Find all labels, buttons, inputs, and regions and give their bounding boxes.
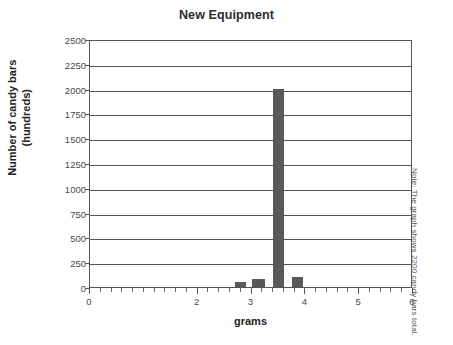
chart-annotation-note: Note: The graph shows 2200 candy bars to… [410,168,419,345]
x-axis-tick-labels: 023456 [89,296,412,310]
x-axis-major-tick [251,288,252,294]
bar [292,277,303,287]
x-axis-minor-tick [100,288,101,292]
x-axis-minor-tick [240,288,241,292]
y-axis-tick-mark [85,288,90,289]
bar [235,282,246,287]
x-axis-tick-label: 5 [356,296,361,307]
x-axis-minor-tick [154,288,155,292]
y-axis-title-line-2: (hundreds) [20,53,34,183]
y-axis-tick-label: 1250 [48,159,86,170]
x-axis-tick-label: 0 [86,296,91,307]
y-axis-tick-mark [85,164,90,165]
x-axis-minor-tick [229,288,230,292]
x-axis-minor-tick [294,288,295,292]
y-axis-tick-label: 1000 [48,183,86,194]
y-axis-tick-mark [85,263,90,264]
bars-layer [90,41,411,287]
bar [273,89,284,287]
x-axis-minor-tick [186,288,187,292]
y-axis-tick-label: 0 [48,283,86,294]
y-axis-tick-mark [85,90,90,91]
x-axis-minor-tick [175,288,176,292]
y-axis-tick-label: 2250 [48,59,86,70]
x-axis-minor-tick [380,288,381,292]
x-axis-tick-label: 2 [194,296,199,307]
y-axis-tick-mark [85,114,90,115]
x-axis-minor-tick [272,288,273,292]
x-axis-minor-tick [347,288,348,292]
y-axis-title: Number of candy bars (hundreds) [6,53,34,183]
y-axis-tick-label: 2500 [48,35,86,46]
x-axis-minor-tick [326,288,327,292]
x-axis-minor-tick [337,288,338,292]
plot-area [89,40,412,288]
x-axis-minor-tick [132,288,133,292]
x-axis-minor-tick [164,288,165,292]
y-axis-tick-label: 750 [48,208,86,219]
y-axis-tick-mark [85,139,90,140]
x-axis-minor-tick [390,288,391,292]
chart-title: New Equipment [0,8,453,22]
y-axis-tick-label: 1500 [48,134,86,145]
x-axis-minor-tick [143,288,144,292]
x-axis-minor-tick [369,288,370,292]
x-axis-minor-tick [111,288,112,292]
y-axis-tick-mark [85,40,90,41]
x-axis-major-tick [197,288,198,294]
x-axis-tick-label: 4 [302,296,307,307]
y-axis-title-line-1: Number of candy bars [6,53,20,183]
x-axis-minor-tick [261,288,262,292]
y-axis-tick-label: 2000 [48,84,86,95]
x-axis-minor-tick [283,288,284,292]
y-axis-tick-label: 1750 [48,109,86,120]
y-axis-tick-label: 250 [48,258,86,269]
y-axis-tick-mark [85,189,90,190]
y-axis-tick-mark [85,214,90,215]
y-axis-tick-label: 500 [48,233,86,244]
x-axis-minor-tick [207,288,208,292]
x-axis-minor-tick [218,288,219,292]
x-axis-major-tick [358,288,359,294]
y-axis-tick-mark [85,238,90,239]
bar [252,279,265,287]
x-axis-major-tick [304,288,305,294]
x-axis-minor-tick [401,288,402,292]
x-axis-title: grams [89,315,412,327]
x-axis-minor-tick [315,288,316,292]
x-axis-tick-label: 3 [248,296,253,307]
chart-container: New Equipment Number of candy bars (hund… [0,0,453,345]
x-axis-minor-tick [121,288,122,292]
x-axis-ticks [89,288,412,294]
y-axis-tick-labels: 02505007501000125015001750200022502500 [48,40,86,288]
y-axis-tick-mark [85,65,90,66]
